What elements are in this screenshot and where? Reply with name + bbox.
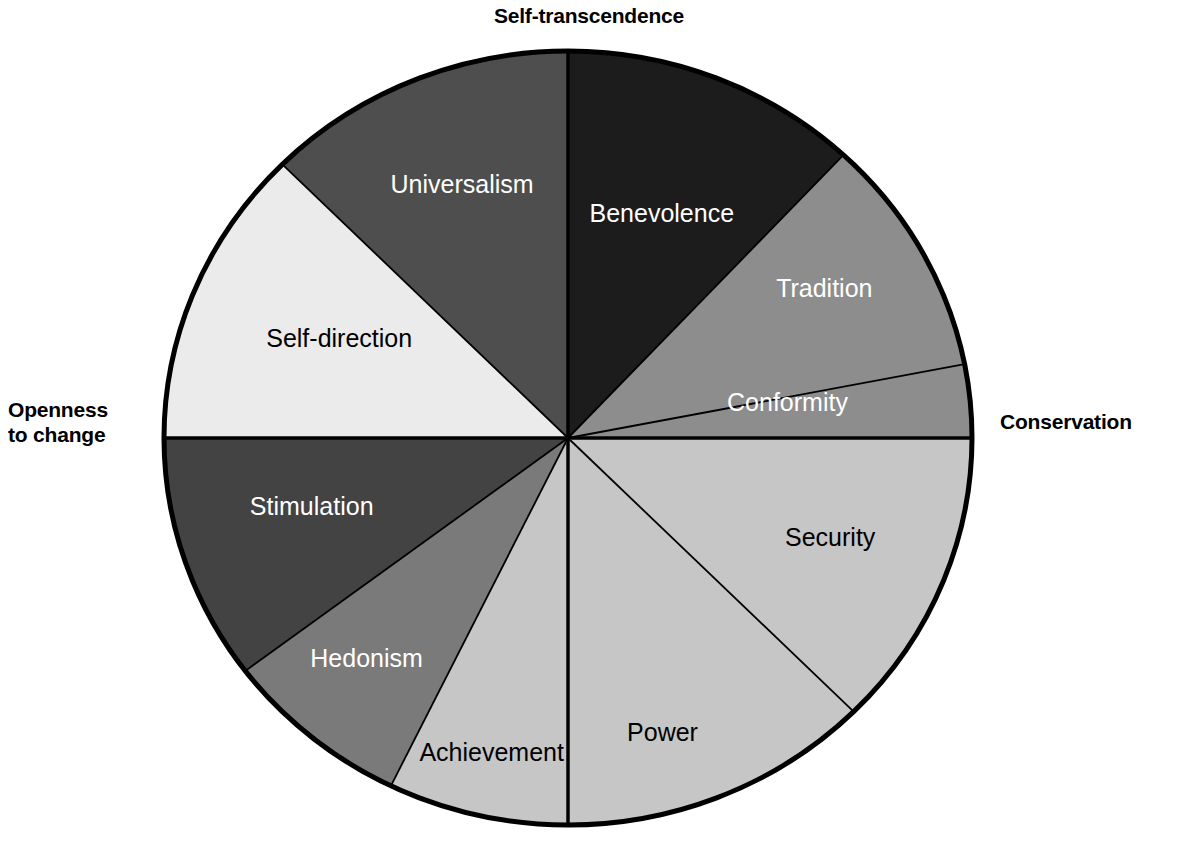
slice-label-universalism: Universalism xyxy=(391,170,534,198)
slice-label-stimulation: Stimulation xyxy=(250,492,374,520)
slice-label-achievement: Achievement xyxy=(419,738,564,766)
slice-label-hedonism: Hedonism xyxy=(310,644,423,672)
slice-label-conformity: Conformity xyxy=(727,388,848,416)
axis-pole-openness-to-change: Openness to change xyxy=(8,398,174,448)
axis-pole-self-transcendence: Self-transcendence xyxy=(0,4,1178,29)
axis-pole-conservation: Conservation xyxy=(1000,410,1178,435)
slice-label-self-direction: Self-direction xyxy=(266,324,412,352)
slice-label-security: Security xyxy=(785,523,876,551)
slice-label-power: Power xyxy=(627,718,698,746)
diagram-canvas: BenevolenceTraditionConformitySecurityPo… xyxy=(0,0,1178,845)
slice-label-tradition: Tradition xyxy=(776,274,872,302)
slice-label-benevolence: Benevolence xyxy=(590,199,735,227)
